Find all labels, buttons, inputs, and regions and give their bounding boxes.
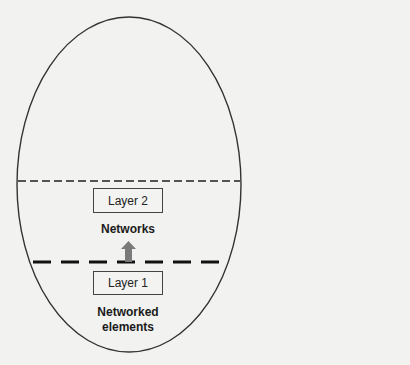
networked-elements-line1: Networked	[78, 305, 178, 320]
layer-1-label: Layer 1	[108, 276, 148, 290]
diagram-graphics	[0, 0, 410, 365]
outer-ellipse	[17, 17, 241, 352]
networked-elements-label: Networked elements	[78, 305, 178, 335]
layer-2-label: Layer 2	[108, 194, 148, 208]
networked-elements-line2: elements	[78, 320, 178, 335]
networks-label: Networks	[88, 222, 168, 237]
diagram-canvas: Layer 2 Networks Layer 1 Networked eleme…	[0, 0, 410, 365]
up-arrow-icon	[121, 241, 136, 262]
layer-1-box: Layer 1	[93, 271, 163, 295]
layer-2-box: Layer 2	[93, 188, 163, 213]
